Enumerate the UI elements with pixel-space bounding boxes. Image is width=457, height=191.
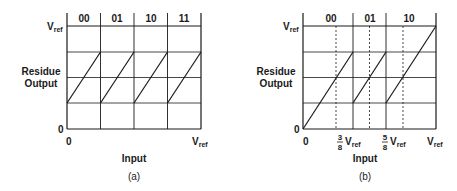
y-axis-label-line2: Output: [260, 78, 293, 89]
y-axis-top-label: Vref: [47, 21, 63, 33]
svg-text:5: 5: [383, 133, 388, 142]
svg-text:Vref: Vref: [390, 136, 406, 148]
code-label-00: 00: [78, 13, 90, 24]
y-axis-zero-label: 0: [294, 124, 300, 135]
svg-text:8: 8: [383, 143, 388, 152]
code-label-10: 10: [403, 13, 415, 24]
y-axis-label-line1: Residue: [22, 66, 61, 77]
y-axis-label-line2: Output: [25, 78, 58, 89]
x-axis-right-label: Vref: [192, 136, 208, 148]
svg-text:8: 8: [338, 143, 343, 152]
y-axis-top-label: Vref: [283, 21, 299, 33]
x-axis-right-label: Vref: [427, 136, 443, 148]
x-axis-label: Input: [122, 153, 147, 164]
caption-b: (b): [359, 171, 371, 182]
code-label-00: 00: [325, 13, 337, 24]
code-label-11: 11: [179, 13, 190, 24]
code-label-01: 01: [364, 13, 376, 24]
y-axis-label-line1: Residue: [257, 66, 296, 77]
svg-text:3: 3: [338, 133, 343, 142]
tick-5-8-vref: 5 8 Vref: [382, 133, 406, 152]
x-axis-zero-label: 0: [66, 136, 72, 147]
code-label-10: 10: [145, 13, 157, 24]
svg-text:Vref: Vref: [345, 136, 361, 148]
panel-b: [303, 13, 436, 129]
panel-a: [67, 13, 201, 129]
residue-diagram: 00 01 10 11 Vref Residue Output 0 0 Vref…: [0, 0, 457, 191]
code-label-01: 01: [111, 13, 123, 24]
tick-3-8-vref: 3 8 Vref: [337, 133, 361, 152]
x-axis-label: Input: [353, 153, 378, 164]
y-axis-zero-label: 0: [58, 124, 64, 135]
x-axis-zero-label: 0: [303, 136, 309, 147]
caption-a: (a): [128, 171, 140, 182]
